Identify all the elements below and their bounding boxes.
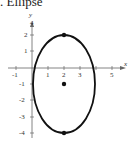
center-point bbox=[62, 82, 66, 86]
x-tick-label: 5 bbox=[110, 71, 114, 79]
x-axis-label: x bbox=[123, 60, 128, 68]
y-tick-label: -4 bbox=[19, 129, 25, 137]
vertex-bottom-point bbox=[62, 131, 66, 135]
y-axis-label: y bbox=[28, 11, 33, 19]
y-tick-label: -1 bbox=[19, 80, 25, 88]
y-tick-label: -3 bbox=[19, 113, 25, 121]
y-tick-label: 1 bbox=[24, 47, 28, 55]
x-tick-label: 3 bbox=[78, 71, 82, 79]
chart-plot: x y -1 1 2 3 5 4 2 1 -1 -2 -3 -4 bbox=[0, 0, 130, 141]
x-tick-label: 2 bbox=[62, 71, 66, 79]
x-axis bbox=[8, 66, 126, 70]
y-tick-label: 2 bbox=[24, 31, 28, 39]
vertex-top-point bbox=[62, 33, 66, 37]
y-tick-label: -2 bbox=[19, 96, 25, 104]
x-tick-label: -1 bbox=[12, 71, 18, 79]
y-tick-label: 4 bbox=[30, 19, 34, 27]
x-tick-label: 1 bbox=[46, 71, 50, 79]
